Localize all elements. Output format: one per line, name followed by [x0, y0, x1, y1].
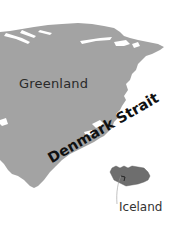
- map-canvas: [0, 0, 191, 232]
- iceland-label: Iceland: [119, 200, 162, 214]
- iceland-landmass: [110, 166, 150, 186]
- greenland-label: Greenland: [19, 76, 88, 91]
